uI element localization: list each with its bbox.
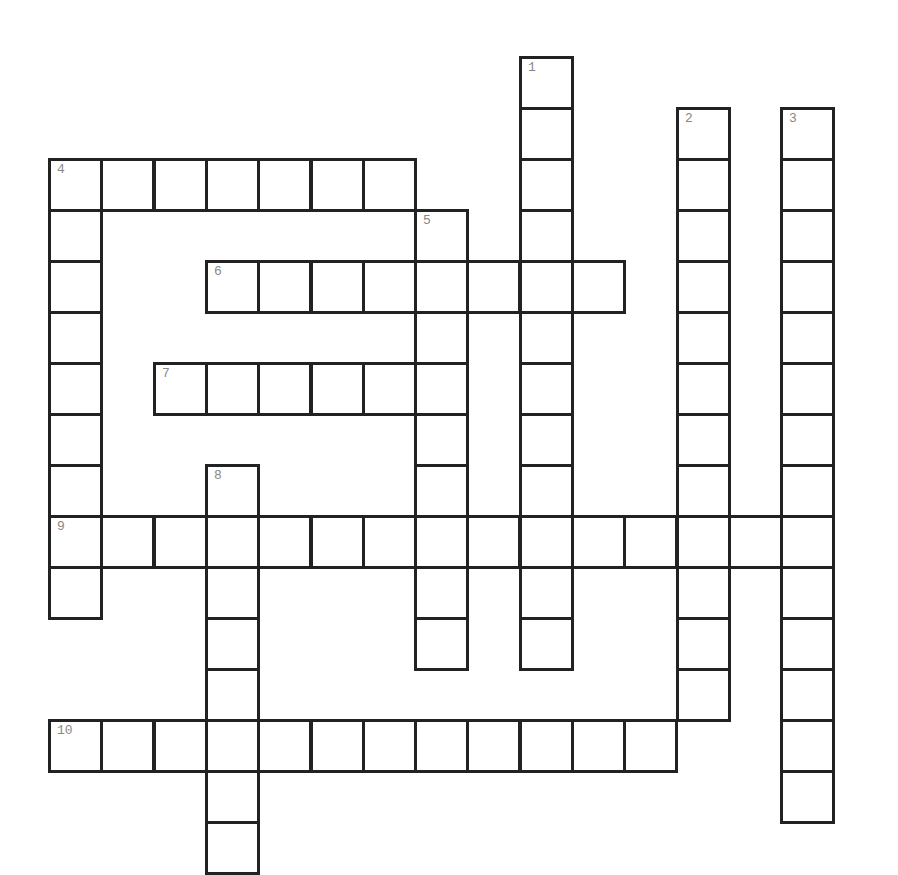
crossword-cell[interactable] <box>519 107 574 161</box>
crossword-cell[interactable] <box>153 515 208 569</box>
crossword-cell[interactable] <box>310 260 365 314</box>
crossword-cell[interactable] <box>362 260 417 314</box>
letter-input[interactable] <box>103 722 152 770</box>
letter-input[interactable] <box>365 161 414 209</box>
letter-input[interactable] <box>522 416 571 464</box>
letter-input[interactable] <box>208 161 257 209</box>
crossword-cell[interactable]: 6 <box>205 260 260 314</box>
crossword-cell[interactable] <box>310 158 365 212</box>
letter-input[interactable] <box>783 161 832 209</box>
letter-input[interactable] <box>51 467 100 515</box>
letter-input[interactable] <box>417 620 466 668</box>
letter-input[interactable] <box>574 722 623 770</box>
crossword-cell[interactable] <box>414 566 469 620</box>
crossword-cell[interactable] <box>362 719 417 773</box>
crossword-cell[interactable] <box>519 719 574 773</box>
letter-input[interactable] <box>731 518 780 566</box>
letter-input[interactable] <box>522 212 571 260</box>
crossword-cell[interactable] <box>205 821 260 875</box>
crossword-cell[interactable] <box>466 515 521 569</box>
letter-input[interactable] <box>103 518 152 566</box>
letter-input[interactable] <box>51 314 100 362</box>
letter-input[interactable] <box>679 467 728 515</box>
letter-input[interactable] <box>313 722 362 770</box>
letter-input[interactable] <box>679 518 728 566</box>
letter-input[interactable] <box>417 518 466 566</box>
letter-input[interactable] <box>365 722 414 770</box>
crossword-cell[interactable] <box>676 260 731 314</box>
letter-input[interactable] <box>156 722 205 770</box>
letter-input[interactable] <box>51 518 100 566</box>
letter-input[interactable] <box>260 722 309 770</box>
crossword-cell[interactable] <box>676 515 731 569</box>
crossword-cell[interactable]: 9 <box>48 515 103 569</box>
crossword-cell[interactable] <box>780 770 835 824</box>
letter-input[interactable] <box>783 263 832 311</box>
crossword-cell[interactable]: 1 <box>519 56 574 110</box>
letter-input[interactable] <box>208 824 257 872</box>
crossword-cell[interactable]: 7 <box>153 362 208 416</box>
crossword-cell[interactable] <box>414 362 469 416</box>
letter-input[interactable] <box>260 365 309 413</box>
crossword-cell[interactable] <box>414 464 469 518</box>
crossword-cell[interactable] <box>48 311 103 365</box>
letter-input[interactable] <box>208 620 257 668</box>
crossword-cell[interactable]: 2 <box>676 107 731 161</box>
crossword-cell[interactable] <box>205 617 260 671</box>
crossword-cell[interactable] <box>205 362 260 416</box>
letter-input[interactable] <box>679 110 728 158</box>
crossword-cell[interactable] <box>310 362 365 416</box>
letter-input[interactable] <box>783 569 832 617</box>
crossword-cell[interactable] <box>676 464 731 518</box>
letter-input[interactable] <box>783 212 832 260</box>
letter-input[interactable] <box>679 671 728 719</box>
letter-input[interactable] <box>208 569 257 617</box>
letter-input[interactable] <box>679 161 728 209</box>
crossword-cell[interactable] <box>728 515 783 569</box>
letter-input[interactable] <box>783 416 832 464</box>
crossword-cell[interactable]: 10 <box>48 719 103 773</box>
letter-input[interactable] <box>469 518 518 566</box>
crossword-cell[interactable] <box>676 362 731 416</box>
letter-input[interactable] <box>417 212 466 260</box>
letter-input[interactable] <box>522 620 571 668</box>
letter-input[interactable] <box>522 365 571 413</box>
letter-input[interactable] <box>51 416 100 464</box>
crossword-cell[interactable] <box>780 719 835 773</box>
letter-input[interactable] <box>522 467 571 515</box>
crossword-cell[interactable]: 5 <box>414 209 469 263</box>
letter-input[interactable] <box>260 263 309 311</box>
letter-input[interactable] <box>679 620 728 668</box>
letter-input[interactable] <box>313 518 362 566</box>
crossword-cell[interactable] <box>48 566 103 620</box>
letter-input[interactable] <box>417 365 466 413</box>
crossword-cell[interactable] <box>676 668 731 722</box>
letter-input[interactable] <box>679 365 728 413</box>
letter-input[interactable] <box>574 518 623 566</box>
letter-input[interactable] <box>626 518 675 566</box>
letter-input[interactable] <box>313 161 362 209</box>
crossword-cell[interactable] <box>780 668 835 722</box>
letter-input[interactable] <box>783 671 832 719</box>
crossword-cell[interactable] <box>519 362 574 416</box>
letter-input[interactable] <box>417 416 466 464</box>
letter-input[interactable] <box>208 671 257 719</box>
letter-input[interactable] <box>51 212 100 260</box>
letter-input[interactable] <box>783 620 832 668</box>
crossword-cell[interactable] <box>519 413 574 467</box>
crossword-cell[interactable] <box>676 311 731 365</box>
letter-input[interactable] <box>522 518 571 566</box>
crossword-cell[interactable] <box>205 566 260 620</box>
crossword-cell[interactable] <box>414 413 469 467</box>
crossword-cell[interactable] <box>780 515 835 569</box>
letter-input[interactable] <box>469 722 518 770</box>
crossword-cell[interactable] <box>153 719 208 773</box>
crossword-cell[interactable] <box>519 515 574 569</box>
crossword-cell[interactable] <box>257 362 312 416</box>
letter-input[interactable] <box>51 365 100 413</box>
letter-input[interactable] <box>417 467 466 515</box>
letter-input[interactable] <box>679 212 728 260</box>
letter-input[interactable] <box>103 161 152 209</box>
crossword-cell[interactable] <box>310 515 365 569</box>
crossword-cell[interactable] <box>466 260 521 314</box>
